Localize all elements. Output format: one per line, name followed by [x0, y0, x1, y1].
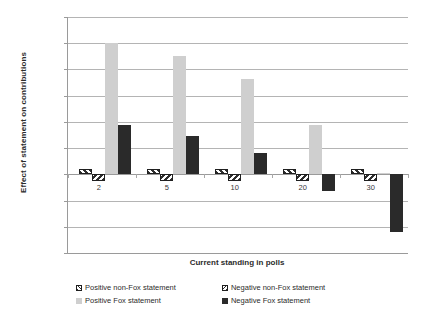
gridline	[68, 227, 408, 228]
bar	[147, 169, 160, 175]
light-gray-swatch	[76, 298, 82, 304]
legend-row: Positive non-Fox statementNegative non-F…	[76, 281, 366, 294]
bar	[296, 174, 309, 181]
gridline	[68, 201, 408, 202]
bar	[173, 56, 186, 174]
legend-label: Negative Fox statement	[231, 296, 310, 305]
bar	[105, 43, 118, 174]
x-tick-label: 30	[361, 183, 381, 192]
y-axis-title: Effect of statement on contributions	[19, 23, 28, 223]
x-tick-mark	[408, 174, 409, 178]
hatch-forward-swatch	[222, 285, 228, 291]
gridline	[68, 253, 408, 254]
bar	[377, 173, 390, 175]
x-tick-mark	[272, 174, 273, 178]
bar	[390, 174, 403, 232]
legend-label: Positive Fox statement	[85, 296, 161, 305]
bar	[215, 169, 228, 175]
y-tick-mark	[64, 43, 68, 44]
gridline	[68, 69, 408, 70]
legend-item[interactable]: Positive non-Fox statement	[76, 283, 222, 292]
y-tick-mark	[64, 148, 68, 149]
chart-legend: Positive non-Fox statementNegative non-F…	[76, 281, 366, 307]
bar	[351, 169, 364, 175]
gridline	[68, 122, 408, 123]
bar-chart: Effect of statement on contributions $6,…	[0, 0, 425, 321]
bar	[241, 79, 254, 175]
y-tick-mark	[64, 253, 68, 254]
x-tick-mark	[204, 174, 205, 178]
legend-item[interactable]: Negative non-Fox statement	[222, 283, 366, 292]
legend-item[interactable]: Positive Fox statement	[76, 296, 222, 305]
gridline	[68, 17, 408, 18]
bar	[283, 169, 296, 175]
black-swatch	[222, 298, 228, 304]
legend-item[interactable]: Negative Fox statement	[222, 296, 366, 305]
bar	[92, 174, 105, 181]
y-tick-mark	[64, 69, 68, 70]
bar	[118, 125, 131, 175]
x-tick-label: 10	[225, 183, 245, 192]
x-axis-title: Current standing in polls	[67, 258, 407, 267]
x-tick-mark	[136, 174, 137, 178]
bar	[228, 174, 241, 181]
x-tick-label: 20	[293, 183, 313, 192]
bar	[254, 153, 267, 174]
bar	[322, 174, 335, 191]
y-tick-mark	[64, 201, 68, 202]
bar	[309, 125, 322, 175]
hatch-backward-swatch	[76, 285, 82, 291]
gridline	[68, 96, 408, 97]
y-tick-mark	[64, 17, 68, 18]
bar	[160, 174, 173, 181]
bar	[186, 136, 199, 174]
bar	[79, 169, 92, 175]
x-tick-label: 2	[89, 183, 109, 192]
legend-row: Positive Fox statementNegative Fox state…	[76, 294, 366, 307]
y-tick-mark	[64, 122, 68, 123]
plot-area: $6,000$5,000$4,000$3,000$2,000$1,000$-$(…	[67, 17, 408, 253]
gridline	[68, 43, 408, 44]
legend-label: Negative non-Fox statement	[231, 283, 325, 292]
y-tick-mark	[64, 227, 68, 228]
x-tick-mark	[340, 174, 341, 178]
legend-label: Positive non-Fox statement	[85, 283, 176, 292]
x-tick-label: 5	[157, 183, 177, 192]
bar	[364, 174, 377, 181]
x-tick-mark	[68, 174, 69, 178]
y-tick-mark	[64, 96, 68, 97]
